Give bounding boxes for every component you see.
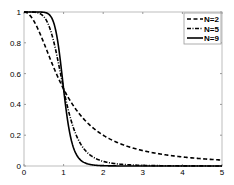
legend-label: N=2 [204,15,219,24]
legend: N=2N=5N=9 [184,13,221,44]
x-tick-label: 2 [101,168,106,177]
x-tick-label: 1 [61,168,66,177]
legend-label: N=5 [204,25,219,34]
y-tick-label: 0.8 [10,39,22,48]
x-tick-label: 5 [220,168,225,177]
x-tick-label: 3 [141,168,146,177]
y-tick-label: 1 [17,8,22,17]
y-tick-label: 0.6 [10,70,22,79]
x-tick-label: 0 [22,168,27,177]
y-tick-label: 0.2 [10,131,22,140]
legend-label: N=9 [204,34,219,43]
y-tick-label: 0 [17,162,22,171]
line-chart: 01234500.20.40.60.81 N=2N=5N=9 [0,0,234,185]
y-tick-label: 0.4 [10,100,22,109]
x-tick-label: 4 [180,168,185,177]
